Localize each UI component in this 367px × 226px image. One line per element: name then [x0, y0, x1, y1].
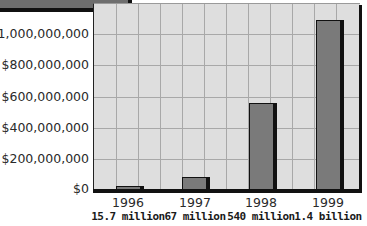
- vgridline: [292, 4, 293, 190]
- vgridline: [314, 4, 315, 190]
- vgridline: [160, 4, 161, 190]
- vgridline: [182, 4, 183, 190]
- x-axis-line: [93, 189, 362, 193]
- bar-1998: [249, 103, 274, 190]
- plot-area: [93, 3, 360, 190]
- vgridline: [226, 4, 227, 190]
- vgridline: [116, 4, 117, 190]
- vgridline: [204, 4, 205, 190]
- ytick-label: $600,000,000: [2, 90, 89, 104]
- ytick-label: $800,000,000: [2, 58, 89, 72]
- xtick-1999: 1999 1.4 billion: [288, 196, 367, 224]
- ytick-label: $200,000,000: [2, 152, 89, 166]
- xtick-year: 1999: [288, 196, 367, 210]
- bar-1999: [316, 20, 341, 190]
- ytick-label: $1,000,000,000: [0, 27, 89, 41]
- ytick-label: $0: [73, 182, 89, 196]
- vgridline: [138, 4, 139, 190]
- ytick-label: $400,000,000: [2, 121, 89, 135]
- xtick-value: 1.4 billion: [288, 210, 367, 224]
- plot-shadow-right: [359, 5, 362, 193]
